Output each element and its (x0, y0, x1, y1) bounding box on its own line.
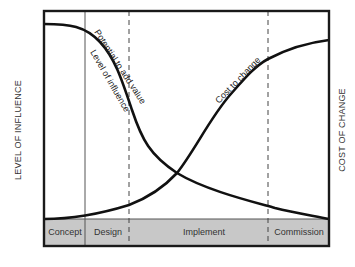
right-axis-label: COST OF CHANGE (337, 88, 347, 172)
phase-label-concept: Concept (48, 227, 82, 237)
phase-label-commission: Commission (274, 227, 324, 237)
project-lifecycle-diagram: LEVEL OF INFLUENCE COST OF CHANGE Potent… (0, 0, 355, 267)
cost-to-change-label: Cost to change (213, 55, 262, 106)
left-axis-label: LEVEL OF INFLUENCE (13, 80, 23, 180)
phase-label-implement: Implement (183, 227, 226, 237)
level-of-influence-curve (44, 24, 329, 219)
phase-label-design: Design (94, 227, 122, 237)
cost-to-change-curve (44, 40, 329, 219)
